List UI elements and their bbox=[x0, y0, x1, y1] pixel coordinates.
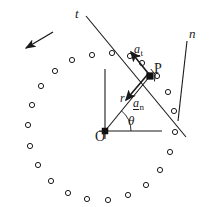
path-dot bbox=[165, 89, 170, 94]
path-dot bbox=[172, 129, 177, 134]
a-n-base-letter: a bbox=[133, 97, 139, 110]
t-axis-label: t bbox=[75, 7, 79, 20]
path-dot bbox=[25, 122, 30, 127]
motion-direction-arrow bbox=[26, 32, 53, 48]
a-t-vector-label: at bbox=[134, 43, 143, 58]
path-dot bbox=[48, 178, 53, 183]
a-n-subscript: n bbox=[140, 103, 145, 112]
point-p-marker bbox=[147, 73, 154, 80]
point-p-label: P bbox=[154, 62, 162, 76]
a-t-base-letter: a bbox=[134, 43, 140, 56]
path-dot bbox=[69, 57, 74, 62]
path-dot bbox=[29, 102, 34, 107]
a-t-subscript: t bbox=[141, 49, 144, 58]
t-axis-line bbox=[86, 16, 186, 137]
path-dot bbox=[38, 83, 43, 88]
n-axis-line bbox=[178, 41, 187, 121]
path-dot bbox=[65, 190, 70, 195]
a-n-vector-label: an bbox=[133, 97, 144, 112]
path-dot bbox=[143, 182, 148, 187]
path-dot bbox=[84, 196, 89, 201]
path-dot bbox=[35, 162, 40, 167]
path-dot bbox=[105, 197, 110, 202]
radius-label: r bbox=[120, 92, 125, 104]
path-dot bbox=[125, 192, 130, 197]
point-o-label: O bbox=[95, 130, 105, 144]
path-dot bbox=[52, 68, 57, 73]
physics-diagram-figure: t n P O r θ at an bbox=[0, 0, 209, 207]
theta-label: θ bbox=[128, 114, 134, 127]
path-dot bbox=[157, 167, 162, 172]
path-dot bbox=[167, 149, 172, 154]
path-dot bbox=[171, 108, 176, 113]
n-axis-label: n bbox=[189, 27, 196, 40]
path-dot bbox=[89, 52, 94, 57]
path-dot bbox=[27, 143, 32, 148]
path-dot bbox=[109, 50, 114, 55]
diagram-canvas bbox=[0, 0, 209, 207]
